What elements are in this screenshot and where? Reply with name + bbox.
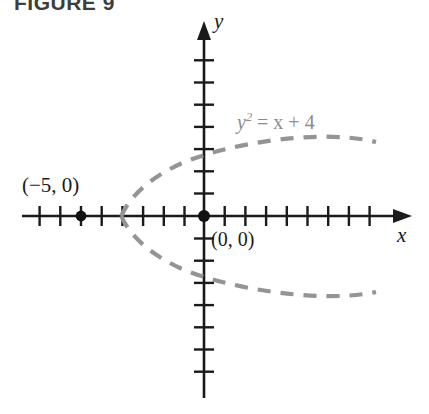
x-axis-label: x [397,223,406,248]
parabola-upper-branch [121,137,376,216]
x-axis-arrowhead [393,209,412,223]
label-point-origin: (0, 0) [211,228,254,251]
y-axis-group [194,21,214,398]
figure-container: FIGURE 9 [0,0,429,414]
label-point-negative-five: (−5, 0) [22,173,79,198]
point-marker-neg5 [76,211,87,222]
y-axis-arrowhead [197,21,211,40]
y-axis-label: y [214,9,223,34]
equation-variable-y: y [237,111,246,133]
point-marker-origin [198,210,210,222]
label-equation: y2 = x + 4 [237,110,315,134]
equation-exponent: 2 [246,110,252,124]
equation-right-side: = x + 4 [257,111,315,133]
coordinate-plane-graph [0,0,429,414]
